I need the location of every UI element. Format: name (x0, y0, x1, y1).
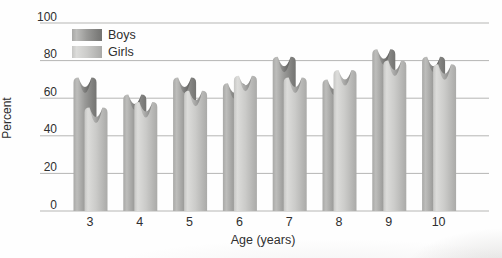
y-tick-label-0: 0 (50, 198, 57, 212)
x-axis-title: Age (years) (231, 233, 296, 247)
bar-girls-age-5 (184, 91, 207, 211)
x-tick-label-8: 8 (336, 215, 343, 229)
x-tick-label-9: 9 (385, 215, 392, 229)
bar-girls-age-7 (284, 78, 307, 211)
x-tick-label-10: 10 (432, 215, 446, 229)
y-tick-label-40: 40 (44, 122, 58, 136)
y-tick-label-80: 80 (44, 47, 58, 61)
x-tick-label-4: 4 (136, 215, 143, 229)
bar-girls-age-6 (234, 76, 257, 211)
x-tick-label-5: 5 (186, 215, 193, 229)
legend-label-girls: Girls (108, 45, 134, 59)
x-tick-label-3: 3 (87, 215, 94, 229)
bar-chart: BoysGirls 020406080100345678910 Percent … (0, 0, 502, 258)
x-tick-label-6: 6 (236, 215, 243, 229)
y-tick-label-100: 100 (37, 10, 57, 24)
y-tick-label-20: 20 (44, 160, 58, 174)
bar-girls-age-3 (85, 108, 108, 211)
x-tick-label-7: 7 (286, 215, 293, 229)
y-axis-title: Percent (0, 97, 14, 139)
bar-girls-age-9 (383, 61, 406, 211)
y-tick-label-60: 60 (44, 85, 58, 99)
bar-girls-age-4 (134, 102, 157, 211)
bar-girls-age-10 (433, 64, 456, 211)
legend-swatch-girls (72, 46, 102, 58)
legend-label-boys: Boys (108, 28, 136, 42)
legend-swatch-boys (72, 29, 102, 41)
chart-figure: BoysGirls 020406080100345678910 Percent … (0, 0, 502, 258)
bar-girls-age-8 (334, 70, 357, 211)
